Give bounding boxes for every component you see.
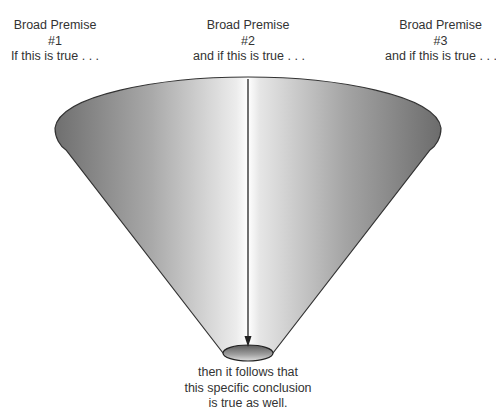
premise-3-condition: and if this is true . . .	[385, 49, 496, 65]
premise-3: Broad Premise #3 and if this is true . .…	[385, 18, 496, 65]
conclusion-text: then it follows that this specific concl…	[148, 365, 348, 412]
premise-3-number: #3	[385, 34, 496, 50]
premise-3-title: Broad Premise	[385, 18, 496, 34]
premise-2-condition: and if this is true . . .	[193, 49, 303, 65]
conclusion-line-3: is true as well.	[148, 396, 348, 412]
conclusion-line-1: then it follows that	[148, 365, 348, 381]
premise-1: Broad Premise #1 If this is true . . .	[0, 18, 110, 65]
conclusion-line-2: this specific conclusion	[148, 381, 348, 397]
premise-1-condition: If this is true . . .	[0, 49, 110, 65]
premise-2: Broad Premise #2 and if this is true . .…	[193, 18, 303, 65]
premise-2-title: Broad Premise	[193, 18, 303, 34]
premise-1-title: Broad Premise	[0, 18, 110, 34]
premise-2-number: #2	[193, 34, 303, 50]
conclusion-opening	[223, 345, 273, 361]
premise-1-number: #1	[0, 34, 110, 50]
